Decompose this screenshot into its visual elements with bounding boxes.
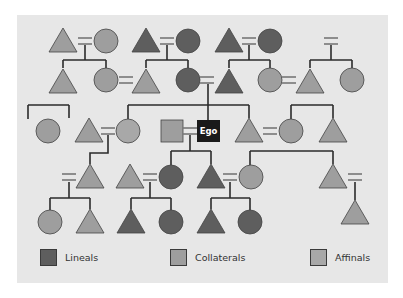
female-circle-A <box>116 119 140 143</box>
male-triangle-L <box>117 209 145 233</box>
female-circle-C <box>38 210 62 234</box>
female-circle-L <box>159 165 183 189</box>
male-triangle-C <box>319 164 347 188</box>
female-circle-L <box>258 29 282 53</box>
legend-label-collaterals: Collaterals <box>195 252 245 263</box>
male-triangle-C <box>235 118 263 142</box>
male-triangle-L <box>197 209 225 233</box>
male-triangle-L <box>215 69 243 93</box>
legend-swatch-collaterals <box>170 249 187 266</box>
legend-item-lineals: Lineals <box>40 249 98 266</box>
male-triangle-C <box>296 69 324 93</box>
male-triangle-L <box>215 28 243 52</box>
female-circle-C <box>340 68 364 92</box>
male-triangle-C <box>76 209 104 233</box>
sibling-square-C <box>161 120 183 142</box>
female-circle-L <box>238 210 262 234</box>
male-triangle-C <box>319 118 347 142</box>
legend-swatch-affinals <box>310 249 327 266</box>
female-circle-C <box>94 29 118 53</box>
male-triangle-C <box>49 69 77 93</box>
female-circle-C <box>239 165 263 189</box>
female-circle-C <box>36 119 60 143</box>
legend-label-lineals: Lineals <box>65 252 98 263</box>
male-triangle-L <box>132 28 160 52</box>
ego-label: Ego <box>200 126 218 136</box>
legend-swatch-lineals <box>40 249 57 266</box>
female-circle-L <box>176 29 200 53</box>
legend-label-affinals: Affinals <box>335 252 370 263</box>
male-triangle-C <box>49 28 77 52</box>
female-circle-C <box>94 68 118 92</box>
male-triangle-C <box>76 164 104 188</box>
legend-item-collaterals: Collaterals <box>170 249 245 266</box>
male-triangle-C <box>341 200 369 224</box>
legend-item-affinals: Affinals <box>310 249 370 266</box>
female-circle-C <box>279 119 303 143</box>
male-triangle-C <box>75 118 103 142</box>
female-circle-C <box>258 68 282 92</box>
male-triangle-L <box>197 164 225 188</box>
female-circle-L <box>176 68 200 92</box>
male-triangle-C <box>116 164 144 188</box>
male-triangle-C <box>132 69 160 93</box>
female-circle-L <box>159 210 183 234</box>
